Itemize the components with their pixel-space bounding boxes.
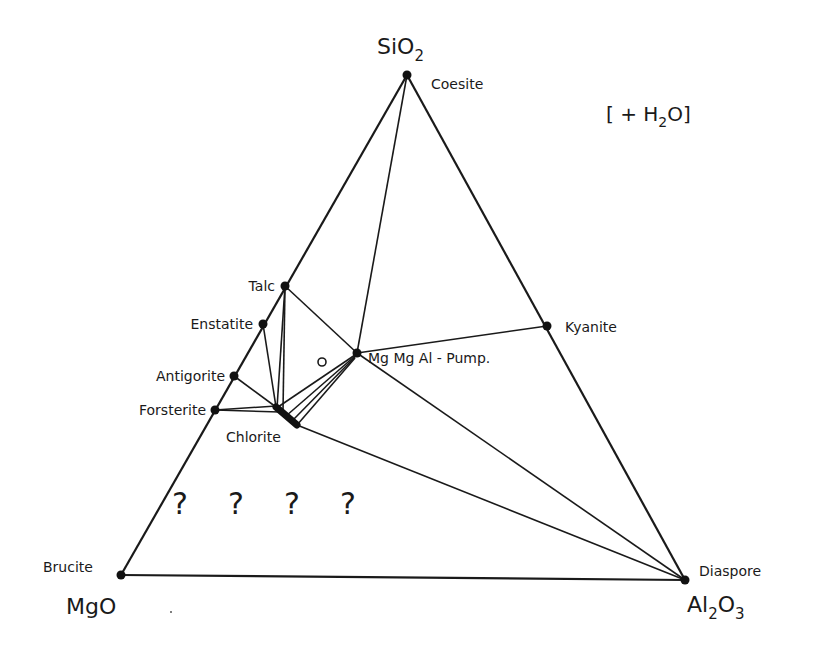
label-antigorite: Antigorite xyxy=(156,368,225,384)
tie-pump-chlorite-d xyxy=(297,358,355,425)
tie-enstatite-chlorite xyxy=(263,324,276,407)
point-antigorite xyxy=(230,372,239,381)
tie-pump-chlorite-a xyxy=(278,355,355,407)
stray-dot xyxy=(170,611,172,613)
tie-pump-chlorite-c xyxy=(292,357,355,421)
tie-forsterite-chlorite-b xyxy=(215,410,280,412)
tie-pump-kyanite xyxy=(357,326,547,353)
edge-mgo-al2o3 xyxy=(121,575,685,580)
label-forsterite: Forsterite xyxy=(139,402,206,418)
ternary-diagram: SiO2 MgO Al2O3 [ + H2O] Coesite Talc Ens… xyxy=(0,0,818,654)
point-talc xyxy=(281,282,290,291)
point-pump xyxy=(353,349,362,358)
label-diaspore: Diaspore xyxy=(699,563,761,579)
label-kyanite: Kyanite xyxy=(565,319,617,335)
label-brucite: Brucite xyxy=(43,559,93,575)
label-enstatite: Enstatite xyxy=(190,316,253,332)
label-talc: Talc xyxy=(248,278,275,294)
label-coesite: Coesite xyxy=(431,76,483,92)
tie-antigorite-chlorite xyxy=(234,376,276,407)
water-annotation: [ + H2O] xyxy=(606,102,691,130)
component-label-al2o3: Al2O3 xyxy=(687,592,745,623)
component-label-sio2: SiO2 xyxy=(377,34,424,65)
tie-talc-pump xyxy=(285,286,357,353)
point-kyanite xyxy=(543,322,552,331)
unknown-field-3: ? xyxy=(284,486,300,521)
unknown-field-4: ? xyxy=(340,486,356,521)
label-chlorite: Chlorite xyxy=(226,429,281,445)
component-label-mgo: MgO xyxy=(66,594,116,619)
unknown-field-1: ? xyxy=(172,486,188,521)
point-enstatite xyxy=(259,320,268,329)
point-diaspore xyxy=(681,576,690,585)
label-pump: Mg Mg Al - Pump. xyxy=(368,350,490,366)
unknown-field-2: ? xyxy=(228,486,244,521)
open-circle-marker xyxy=(318,358,326,366)
tie-forsterite-chlorite-a xyxy=(215,406,276,410)
point-forsterite xyxy=(211,406,220,415)
tie-pump-diaspore xyxy=(357,353,685,580)
point-brucite xyxy=(117,571,126,580)
point-coesite xyxy=(403,71,412,80)
